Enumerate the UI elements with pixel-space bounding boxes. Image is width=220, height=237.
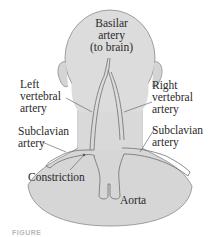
constriction-label: Constriction — [28, 171, 85, 183]
aorta-label: Aorta — [120, 194, 146, 206]
left-subclavian-label: Subclavian artery — [18, 125, 69, 149]
right-vertebral-label: Right vertebral artery — [152, 79, 193, 115]
basilar-label: Basilar artery (to brain) — [90, 17, 133, 53]
left-vertebral-label: Left vertebral artery — [20, 78, 61, 114]
figure-caption: FIGURE — [12, 229, 41, 236]
right-subclavian-label: Subclavian artery — [152, 124, 203, 148]
